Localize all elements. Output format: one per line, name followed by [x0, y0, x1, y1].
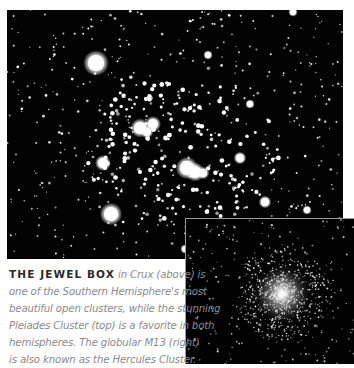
caption-line-5: hemispheres. The globular M13 (right) [9, 334, 187, 351]
globular-cluster-graphic [186, 219, 354, 364]
caption-line-6: is also known as the Hercules Cluster. [9, 351, 187, 368]
caption-text: in Crux (above) is [115, 269, 206, 280]
caption-line-4: Pleiades Cluster (top) is a favorite in … [9, 317, 187, 334]
m13-globular-cluster-photo [185, 218, 354, 364]
caption-line-2: one of the Southern Hemisphere's most [9, 283, 187, 300]
caption-line-3: beautiful open clusters, while the stunn… [9, 300, 187, 317]
caption-lead: THE JEWEL BOX [9, 268, 115, 280]
caption-line-1: THE JEWEL BOX in Crux (above) is [9, 266, 187, 283]
photo-caption: THE JEWEL BOX in Crux (above) is one of … [9, 266, 187, 368]
